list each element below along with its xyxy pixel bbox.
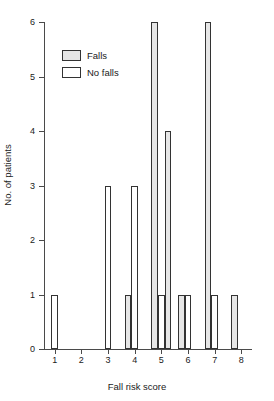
y-tick: 5 xyxy=(39,77,44,78)
x-tick-label: 1 xyxy=(52,356,57,365)
bar xyxy=(185,295,192,350)
legend-item-falls: Falls xyxy=(62,47,119,64)
x-tick xyxy=(135,349,136,354)
legend-label-no-falls: No falls xyxy=(87,67,119,78)
bar xyxy=(165,131,172,349)
x-tick xyxy=(241,349,242,354)
x-tick-label: 2 xyxy=(79,356,84,365)
y-tick: 3 xyxy=(39,186,44,187)
legend-swatch-no-falls xyxy=(62,67,81,78)
y-tick-label: 2 xyxy=(30,236,35,245)
y-tick: 1 xyxy=(39,295,44,296)
x-tick-label: 4 xyxy=(132,356,137,365)
bar xyxy=(178,295,185,350)
y-tick-label: 4 xyxy=(30,127,35,136)
x-tick xyxy=(161,349,162,354)
y-tick: 0 xyxy=(39,349,44,350)
x-tick xyxy=(81,349,82,354)
x-tick xyxy=(215,349,216,354)
x-tick xyxy=(55,349,56,354)
y-tick-label: 1 xyxy=(30,290,35,299)
x-axis-label: Fall risk score xyxy=(0,381,274,392)
y-tick-label: 5 xyxy=(30,72,35,81)
y-tick-label: 6 xyxy=(30,18,35,27)
legend-swatch-falls xyxy=(62,50,81,61)
bar xyxy=(51,295,58,350)
bar xyxy=(125,295,132,350)
legend: Falls No falls xyxy=(62,47,119,81)
x-axis-line xyxy=(44,349,252,350)
bar xyxy=(105,186,112,350)
bar xyxy=(158,295,165,350)
bar xyxy=(231,295,238,350)
x-tick-label: 6 xyxy=(185,356,190,365)
bar xyxy=(211,295,218,350)
bar xyxy=(151,22,158,349)
legend-item-no-falls: No falls xyxy=(62,64,119,81)
y-axis-label: No. of patients xyxy=(2,144,13,205)
x-tick xyxy=(188,349,189,354)
y-tick-label: 3 xyxy=(30,181,35,190)
x-tick-label: 5 xyxy=(159,356,164,365)
fall-risk-histogram: 012345612345678 No. of patients Fall ris… xyxy=(0,0,274,401)
x-tick-label: 8 xyxy=(239,356,244,365)
x-tick-label: 7 xyxy=(212,356,217,365)
bar xyxy=(131,186,138,350)
bar xyxy=(205,22,212,349)
x-tick xyxy=(108,349,109,354)
y-tick-label: 0 xyxy=(30,345,35,354)
y-tick: 4 xyxy=(39,131,44,132)
legend-label-falls: Falls xyxy=(87,50,107,61)
x-tick-label: 3 xyxy=(105,356,110,365)
y-tick: 6 xyxy=(39,22,44,23)
y-tick: 2 xyxy=(39,240,44,241)
